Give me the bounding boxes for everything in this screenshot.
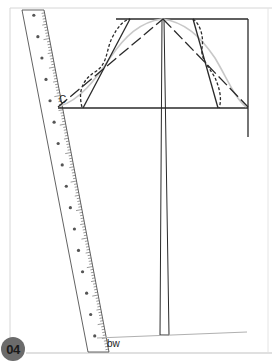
ruler-number-marker — [73, 227, 76, 230]
solid-diagonal-left — [83, 19, 130, 108]
dashed-diagonal-left — [58, 19, 163, 107]
ruler-number-marker — [61, 163, 64, 166]
center-pole — [160, 19, 169, 335]
point-bw-label: bw — [107, 338, 120, 349]
ruler-number-marker — [40, 56, 43, 59]
ruler-body — [22, 10, 109, 352]
ruler-number-marker — [57, 142, 60, 145]
ruler-number-marker — [77, 249, 80, 252]
ruler — [22, 10, 109, 352]
ruler-number-marker — [36, 35, 39, 38]
ruler-number-marker — [53, 121, 56, 124]
step-number-badge: 04 — [1, 337, 25, 361]
ruler-number-marker — [89, 313, 92, 316]
ruler-number-marker — [32, 14, 35, 17]
ruler-number-marker — [65, 185, 68, 188]
ruler-number-marker — [81, 270, 84, 273]
ruler-number-marker — [69, 206, 72, 209]
ruler-number-marker — [44, 78, 47, 81]
point-c-label: C — [59, 94, 66, 105]
grey-curve — [60, 19, 246, 107]
ruler-number-marker — [48, 99, 51, 102]
ruler-number-marker — [93, 334, 96, 337]
ruler-number-marker — [85, 292, 88, 295]
